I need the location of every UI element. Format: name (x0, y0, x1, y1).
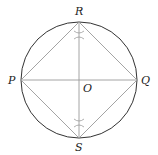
segment-SP (21, 80, 79, 138)
segment-RQ (79, 22, 137, 80)
geometry-diagram: R P Q S O (0, 0, 158, 155)
segment-PR (21, 22, 79, 80)
label-P: P (7, 74, 16, 87)
label-Q: Q (141, 74, 150, 87)
label-S: S (75, 141, 83, 154)
label-O: O (83, 82, 92, 95)
label-R: R (74, 5, 83, 18)
